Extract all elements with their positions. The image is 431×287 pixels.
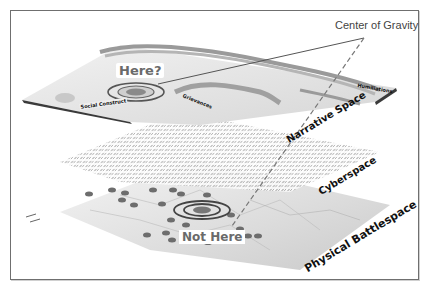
center-of-gravity-label: Center of Gravity (335, 19, 418, 31)
not-here-marker-label: Not Here (179, 230, 245, 244)
here-marker-label: Here? (116, 63, 164, 78)
